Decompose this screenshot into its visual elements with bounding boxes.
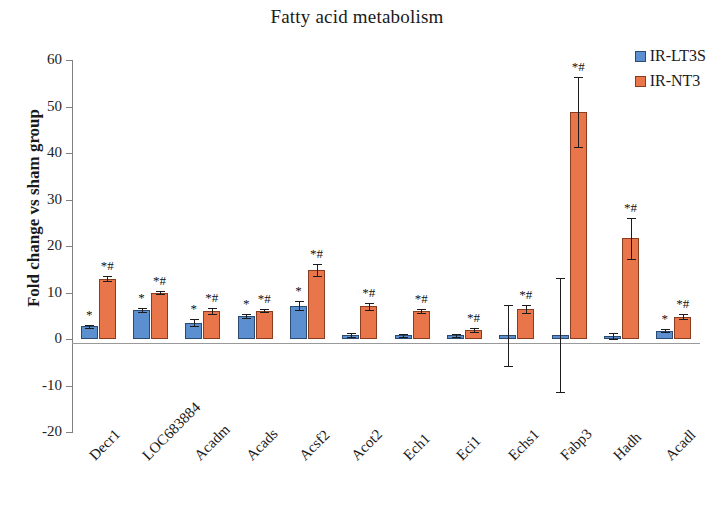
error-bar-cap — [138, 312, 147, 313]
bar — [674, 317, 691, 339]
error-bar-cap — [452, 334, 461, 335]
error-bar — [508, 305, 509, 366]
y-tick — [66, 107, 73, 108]
error-bar-cap — [679, 319, 688, 320]
error-bar-cap — [103, 276, 112, 277]
error-bar — [526, 305, 527, 313]
error-bar-cap — [627, 218, 636, 219]
error-bar-cap — [661, 329, 670, 330]
error-bar — [369, 303, 370, 310]
error-bar — [317, 264, 318, 276]
significance-marker: *# — [303, 247, 331, 260]
error-bar-cap — [417, 309, 426, 310]
error-bar-cap — [347, 333, 356, 334]
significance-marker: *# — [198, 291, 226, 304]
error-bar — [560, 278, 561, 392]
x-axis-label: Hadh — [610, 429, 645, 464]
error-bar-cap — [295, 310, 304, 311]
error-bar-cap — [574, 147, 583, 148]
error-bar-cap — [260, 312, 269, 313]
error-bar-cap — [679, 314, 688, 315]
error-bar-cap — [452, 337, 461, 338]
x-axis-label: Eci1 — [453, 433, 484, 464]
legend-item[interactable]: IR-NT3 — [635, 73, 706, 89]
bar — [256, 311, 273, 339]
y-tick-label: 20 — [14, 237, 62, 254]
y-tick-label: -20 — [14, 423, 62, 440]
error-bar-cap — [365, 303, 374, 304]
bar — [238, 316, 255, 339]
error-bar-cap — [556, 278, 565, 279]
error-bar-cap — [504, 366, 513, 367]
y-tick — [66, 60, 73, 61]
bar — [360, 306, 377, 339]
error-bar — [578, 77, 579, 148]
chart-figure: Fatty acid metabolism Fold change vs sha… — [0, 0, 714, 532]
y-tick-label: 0 — [14, 330, 62, 347]
y-tick — [66, 153, 73, 154]
x-axis-label: Echs1 — [505, 426, 543, 464]
error-bar-cap — [242, 318, 251, 319]
x-axis-label: Acads — [243, 425, 282, 464]
error-bar-cap — [313, 264, 322, 265]
x-axis-label: Acadl — [662, 427, 699, 464]
y-tick — [66, 386, 73, 387]
bar — [308, 270, 325, 339]
error-bar-cap — [138, 308, 147, 309]
bar — [413, 311, 430, 339]
error-bar-cap — [627, 259, 636, 260]
error-bar-cap — [522, 313, 531, 314]
x-axis-label: Acsf2 — [296, 427, 333, 464]
error-bar-cap — [470, 332, 479, 333]
error-bar-cap — [470, 328, 479, 329]
error-bar-cap — [399, 337, 408, 338]
error-bar-cap — [504, 305, 513, 306]
error-bar-cap — [574, 77, 583, 78]
y-tick-label: 60 — [14, 51, 62, 68]
error-bar-cap — [609, 339, 618, 340]
error-bar-cap — [399, 334, 408, 335]
y-tick-label: 50 — [14, 98, 62, 115]
significance-marker: *# — [355, 286, 383, 299]
error-bar-cap — [661, 332, 670, 333]
significance-marker: *# — [564, 60, 592, 73]
error-bar-cap — [190, 319, 199, 320]
legend-label: IR-NT3 — [650, 73, 701, 89]
error-bar-cap — [208, 308, 217, 309]
error-bar — [299, 301, 300, 310]
legend-swatch-icon — [635, 51, 646, 62]
x-axis-label: Ech1 — [400, 430, 434, 464]
legend-swatch-icon — [635, 76, 646, 87]
error-bar-cap — [347, 337, 356, 338]
significance-marker: *# — [512, 288, 540, 301]
bar — [99, 279, 116, 339]
y-tick — [66, 339, 73, 340]
error-bar-cap — [522, 305, 531, 306]
error-bar-cap — [85, 328, 94, 329]
error-bar — [631, 218, 632, 259]
error-bar-cap — [242, 314, 251, 315]
error-bar-cap — [208, 314, 217, 315]
x-axis-label: Decr1 — [86, 426, 124, 464]
error-bar-cap — [156, 294, 165, 295]
y-tick-label: 40 — [14, 144, 62, 161]
error-bar-cap — [103, 281, 112, 282]
significance-marker: *# — [617, 201, 645, 214]
error-bar-cap — [295, 301, 304, 302]
error-bar-cap — [85, 325, 94, 326]
chart-title: Fatty acid metabolism — [0, 6, 714, 28]
legend-item[interactable]: IR-LT3S — [635, 48, 706, 64]
zero-baseline — [72, 343, 700, 344]
y-tick — [66, 246, 73, 247]
error-bar-cap — [313, 276, 322, 277]
y-tick-label: 10 — [14, 284, 62, 301]
x-axis-label: Acot2 — [348, 426, 386, 464]
error-bar-cap — [609, 333, 618, 334]
error-bar-cap — [365, 310, 374, 311]
bar — [151, 293, 168, 340]
error-bar-cap — [260, 309, 269, 310]
significance-marker: *# — [460, 311, 488, 324]
significance-marker: *# — [407, 292, 435, 305]
significance-marker: *# — [93, 259, 121, 272]
y-tick-label: 30 — [14, 191, 62, 208]
